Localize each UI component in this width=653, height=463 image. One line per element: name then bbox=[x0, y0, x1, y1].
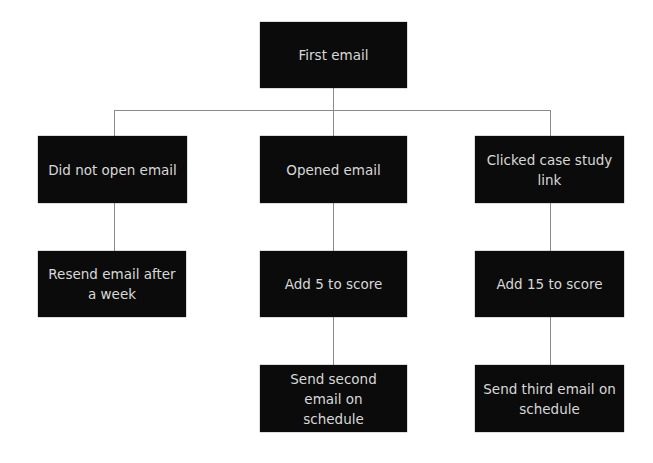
node-label: Did not open email bbox=[48, 160, 177, 180]
connector-opened-to-add5 bbox=[333, 203, 334, 251]
connector-add5-to-second-email bbox=[333, 317, 334, 365]
connector-to-opened bbox=[333, 110, 334, 136]
connector-root-down bbox=[333, 88, 334, 110]
node-label: Opened email bbox=[286, 160, 380, 180]
node-first-email: First email bbox=[260, 22, 407, 88]
node-label: First email bbox=[299, 45, 369, 65]
node-label: Send third email on schedule bbox=[483, 379, 616, 419]
node-clicked-case-study-link: Clicked case study link bbox=[475, 136, 624, 203]
connector-to-not-opened bbox=[114, 110, 115, 136]
node-did-not-open-email: Did not open email bbox=[38, 136, 187, 203]
node-label: Add 5 to score bbox=[285, 274, 382, 294]
connector-add15-to-third-email bbox=[550, 317, 551, 365]
node-label: Clicked case study link bbox=[483, 150, 616, 190]
node-label: Add 15 to score bbox=[496, 274, 602, 294]
node-send-second-email: Send second email on schedule bbox=[260, 365, 407, 432]
node-resend-email: Resend email after a week bbox=[38, 251, 186, 317]
node-label: Send second email on schedule bbox=[278, 369, 389, 429]
connector-to-clicked bbox=[550, 110, 551, 136]
node-opened-email: Opened email bbox=[260, 136, 407, 203]
flowchart-canvas: First email Did not open email Opened em… bbox=[0, 0, 653, 463]
node-add-15-to-score: Add 15 to score bbox=[475, 251, 624, 317]
node-label: Resend email after a week bbox=[46, 264, 178, 304]
connector-not-opened-to-resend bbox=[114, 203, 115, 251]
node-send-third-email: Send third email on schedule bbox=[475, 365, 624, 432]
node-add-5-to-score: Add 5 to score bbox=[260, 251, 407, 317]
connector-clicked-to-add15 bbox=[550, 203, 551, 251]
